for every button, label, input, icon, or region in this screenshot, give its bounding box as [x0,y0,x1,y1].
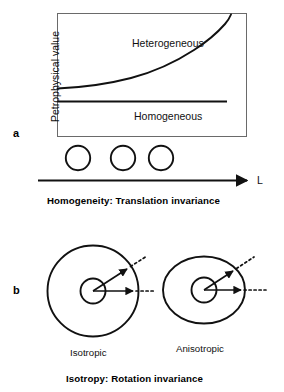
panel-letter-b: b [13,285,20,296]
panel-a-caption: Homogeneity: Translation invariance [47,196,220,206]
anisotropic-dotted-extension-diagonal [237,257,255,269]
y-axis-label: Petrophysical value [50,31,61,122]
translation-circle-3 [149,146,173,170]
translation-circle-2 [111,146,135,170]
homogeneous-label: Homogeneous [134,111,202,122]
isotropic-dotted-extension-diagonal [131,256,148,267]
anisotropic-label: Anisotropic [176,344,224,354]
translation-circle-1 [66,146,90,170]
x-axis-label-L: L [257,175,263,186]
panel-b-graphics [48,246,267,337]
heterogeneous-label: Heterogeneous [132,38,204,49]
panel-letter-a: a [13,128,19,139]
isotropic-label: Isotropic [70,348,107,358]
figure-root: a Petrophysical value Heterogeneous Homo… [0,0,284,392]
panel-b-caption: Isotropy: Rotation invariance [66,374,203,384]
